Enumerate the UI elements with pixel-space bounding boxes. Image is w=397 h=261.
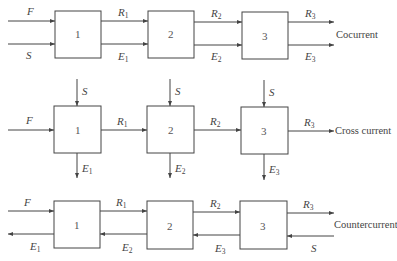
stage-1-label: 1 xyxy=(74,219,80,231)
stream-e1: E1 xyxy=(117,50,129,64)
stage-3-label: 3 xyxy=(262,30,268,42)
stream-r3: R3 xyxy=(304,7,316,21)
stage-3-label: 3 xyxy=(260,220,266,232)
stream-r3: R3 xyxy=(303,116,315,130)
stream-r3: R3 xyxy=(302,198,314,212)
countercurrent-row: F E1 1 2 3 R1 R2 R3 E2 E3 S Countercurre… xyxy=(8,196,397,256)
extraction-flow-diagram: F S 1 2 3 R1 E1 R2 E2 R3 E3 Cocurrent F … xyxy=(0,0,397,261)
stage-2-label: 2 xyxy=(168,28,174,40)
mode-label-cocurrent: Cocurrent xyxy=(336,29,378,40)
stage-3-label: 3 xyxy=(261,125,267,137)
stream-r1: R1 xyxy=(117,6,129,20)
stream-e3: E3 xyxy=(268,163,280,177)
stage-2-label: 2 xyxy=(168,124,174,136)
solvent-label: S xyxy=(26,49,32,61)
cocurrent-row: F S 1 2 3 R1 E1 R2 E2 R3 E3 Cocurrent xyxy=(8,5,378,64)
solvent-label: S xyxy=(311,242,317,254)
stream-r1: R1 xyxy=(115,196,127,210)
stream-r2: R2 xyxy=(210,7,222,21)
stream-r2: R2 xyxy=(209,197,221,211)
feed-label: F xyxy=(23,196,31,208)
stream-e1: E1 xyxy=(29,240,41,254)
mode-label-crosscurrent: Cross current xyxy=(335,125,391,136)
stream-r1: R1 xyxy=(116,115,128,129)
solvent-2-label: S xyxy=(175,85,181,97)
mode-label-countercurrent: Countercurrent xyxy=(334,219,397,230)
stream-e2: E2 xyxy=(210,50,222,64)
stream-e2: E2 xyxy=(121,241,133,255)
stream-e3: E3 xyxy=(304,50,316,64)
stream-e2: E2 xyxy=(174,162,186,176)
stream-e1: E1 xyxy=(81,162,93,176)
stream-r2: R2 xyxy=(209,115,221,129)
solvent-3-label: S xyxy=(269,86,275,98)
stage-1-label: 1 xyxy=(75,124,81,136)
crosscurrent-row: F 1 2 3 S S S E1 E2 E3 R1 R2 R3 Cross cu… xyxy=(8,79,391,180)
stage-1-label: 1 xyxy=(75,28,81,40)
solvent-1-label: S xyxy=(82,85,88,97)
stage-2-label: 2 xyxy=(167,220,173,232)
stream-e3: E3 xyxy=(214,242,226,256)
feed-label: F xyxy=(26,5,34,17)
feed-label: F xyxy=(25,114,33,126)
